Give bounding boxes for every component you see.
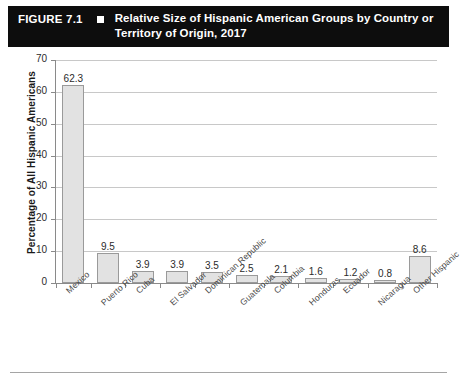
bar-value-label: 62.3 (64, 73, 83, 84)
figure-title: Relative Size of Hispanic American Group… (115, 11, 439, 40)
gridline (56, 187, 437, 188)
x-axis-tick (368, 283, 369, 288)
bar[interactable]: 9.5 (97, 253, 119, 283)
y-axis-tick (51, 124, 56, 125)
gridline (56, 60, 437, 61)
x-axis-tick (229, 283, 230, 288)
bar[interactable]: 62.3 (62, 85, 84, 283)
chart-container: Percentage of All Hispanic Americans 010… (0, 47, 457, 385)
x-axis-line (55, 283, 437, 284)
bar-value-label: 0.8 (378, 268, 392, 279)
y-axis-tick (51, 60, 56, 61)
y-axis-tick (51, 219, 56, 220)
gridline (56, 92, 437, 93)
bar-value-label: 9.5 (101, 241, 115, 252)
bar-value-label: 3.9 (136, 259, 150, 270)
y-axis-tick-label: 20 (36, 212, 47, 223)
y-axis-tick-label: 60 (36, 85, 47, 96)
gridline (56, 156, 437, 157)
bar-value-label: 1.6 (309, 266, 323, 277)
y-axis-tick (51, 156, 56, 157)
y-axis-tick (51, 92, 56, 93)
y-axis-tick-label: 40 (36, 149, 47, 160)
bar-value-label: 3.9 (170, 259, 184, 270)
y-axis-tick-label: 0 (41, 276, 47, 287)
bar[interactable]: 3.9 (166, 271, 188, 283)
bar[interactable]: 1.6 (305, 278, 327, 283)
y-axis-tick-label: 10 (36, 244, 47, 255)
x-axis-tick (437, 283, 438, 288)
y-axis-tick (51, 251, 56, 252)
y-axis-tick (51, 187, 56, 188)
footer-divider (10, 372, 447, 373)
y-axis-tick-label: 70 (36, 53, 47, 64)
gridline (56, 124, 437, 125)
x-axis-tick (56, 283, 57, 288)
gridline (56, 219, 437, 220)
bar-value-label: 8.6 (413, 244, 427, 255)
bar-value-label: 3.5 (205, 260, 219, 271)
square-bullet-icon (97, 16, 104, 23)
y-axis-tick-label: 50 (36, 117, 47, 128)
figure-title-bar: FIGURE 7.1 Relative Size of Hispanic Ame… (8, 6, 449, 47)
y-axis-tick-label: 30 (36, 180, 47, 191)
bar[interactable]: 0.8 (374, 280, 396, 283)
x-axis-tick (298, 283, 299, 288)
figure-number: FIGURE 7.1 (18, 11, 83, 26)
x-axis-tick (91, 283, 92, 288)
bar[interactable]: 2.5 (236, 275, 258, 283)
x-axis-tick (160, 283, 161, 288)
y-axis-title: Percentage of All Hispanic Americans (26, 48, 37, 278)
